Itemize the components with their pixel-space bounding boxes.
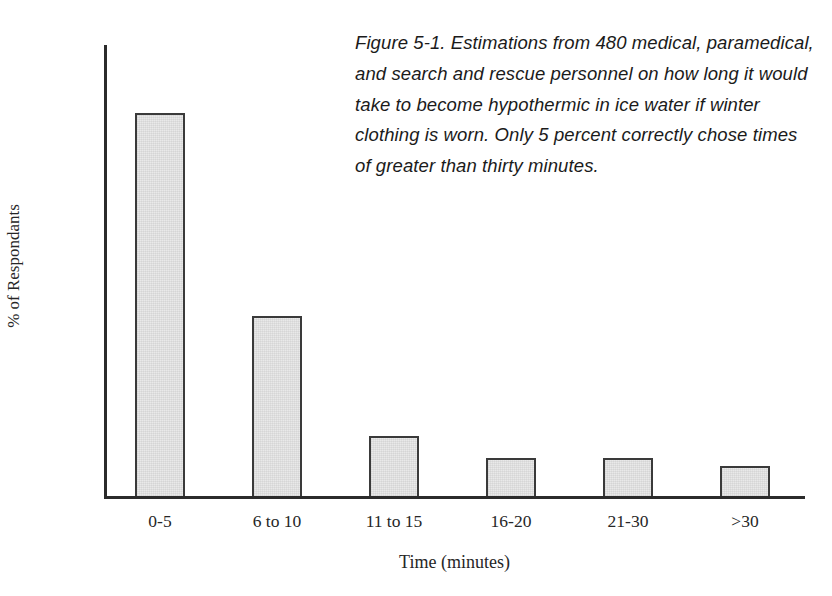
y-axis-line	[104, 45, 107, 496]
bar	[369, 436, 419, 496]
bar	[252, 316, 302, 496]
bar	[486, 458, 536, 496]
figure-page: Figure 5-1. Estimations from 480 medical…	[0, 0, 832, 596]
x-tick-label: >30	[675, 511, 815, 532]
x-axis-title: Time (minutes)	[104, 552, 805, 573]
x-axis-line	[104, 496, 805, 499]
y-axis-title: % of Respondants	[4, 131, 26, 401]
bar	[720, 466, 770, 496]
bar	[603, 458, 653, 496]
bar	[135, 113, 185, 496]
plot-area: 0102030405060 0-56 to 1011 to 1516-2021-…	[104, 45, 805, 496]
